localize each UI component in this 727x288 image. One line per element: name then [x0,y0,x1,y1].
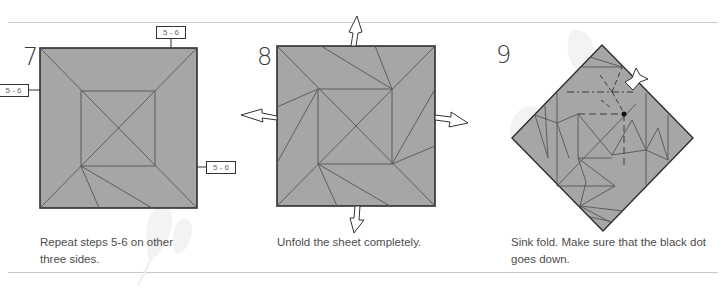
step-9-caption-line2: goes down. [511,251,706,268]
step-9-caption-line1: Sink fold. Make sure that the black dot [511,234,706,251]
step-9-diagram [0,0,727,240]
step-9-caption: Sink fold. Make sure that the black dot … [511,234,706,268]
black-dot-icon [622,112,627,117]
step-7-caption-line2: three sides. [40,251,173,268]
